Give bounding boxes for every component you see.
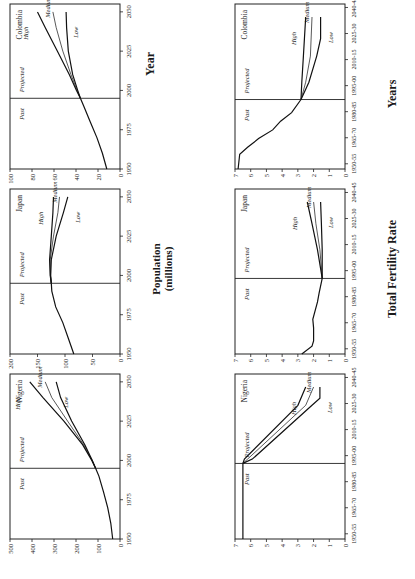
past-label: Past [18, 108, 25, 121]
y-tick-label: 4 [279, 358, 286, 362]
y-tick-label: 40 [73, 174, 80, 181]
y-tick-label: 100 [95, 544, 102, 554]
projected-label: Projected [18, 437, 25, 464]
series-line-low [56, 382, 95, 468]
panel-title: Japan [15, 195, 24, 212]
series-label-high: High [22, 27, 29, 41]
series-label-low: Low [327, 31, 334, 44]
chart-svg: 010020030040050019501975200020252050Past… [10, 374, 142, 539]
x-tick-label: 2025 [125, 230, 132, 243]
series-label-low: Low [327, 216, 334, 229]
y-tick-label: 5 [263, 544, 270, 547]
projected-label: Projected [18, 252, 25, 279]
population-y-title-line2: (millions) [162, 194, 174, 344]
y-tick-label: 400 [29, 544, 36, 554]
population-panel-colombia: 02040608010019501975200020252050PastProj… [10, 4, 120, 169]
y-tick-label: 150 [34, 359, 41, 369]
series-label-high: High [290, 402, 297, 416]
y-tick-label: 3 [294, 544, 301, 547]
projected-label: Projected [243, 247, 250, 274]
y-tick-label: 300 [51, 544, 58, 554]
fertility-panel-nigeria: 012345671950-551965-701980-851995-002010… [235, 374, 345, 539]
series-label-medium: Medium [305, 371, 312, 394]
panel-title: Nigeria [240, 379, 249, 402]
y-tick-label: 1 [326, 174, 333, 177]
series-label-medium: Medium [36, 366, 43, 389]
series-label-low: Low [74, 211, 81, 224]
series-label-high: High [291, 217, 298, 231]
past-series-line [96, 468, 113, 539]
y-tick-label: 6 [247, 173, 254, 177]
x-tick-label: 2025-30 [351, 394, 357, 414]
x-tick-label: 1950 [125, 163, 132, 176]
chart-svg: 012345671950-551965-701980-851995-002010… [235, 189, 367, 354]
x-tick-label: 1975 [125, 493, 132, 506]
past-label: Past [18, 478, 25, 491]
population-x-axis-title: Year [143, 34, 158, 94]
fertility-y-axis-title: Total Fertility Rate [385, 189, 400, 349]
series-label-high: High [290, 32, 297, 46]
x-tick-label: 1950-55 [351, 339, 357, 359]
x-tick-label: 1965-70 [351, 498, 357, 518]
series-label-low: Low [62, 396, 69, 409]
past-series-line [80, 98, 106, 169]
x-tick-label: 1995-00 [351, 261, 357, 281]
y-tick-label: 7 [232, 173, 239, 177]
x-tick-label: 1965-70 [351, 128, 357, 148]
x-tick-label: 2010-15 [351, 50, 357, 70]
chart-svg: 012345671950-551965-701980-851995-002010… [235, 4, 367, 169]
x-tick-label: 2025-30 [351, 209, 357, 229]
x-tick-label: 1950 [125, 348, 132, 361]
y-tick-label: 200 [73, 544, 80, 554]
series-line-low [301, 17, 321, 100]
x-tick-label: 1950 [125, 533, 132, 546]
y-tick-label: 100 [62, 359, 69, 369]
rotated-figure: 010020030040050019501975200020252050Past… [0, 0, 415, 579]
population-y-axis-title: Population (millions) [150, 194, 174, 344]
series-label-high: High [37, 212, 44, 226]
projected-label: Projected [18, 67, 25, 94]
x-tick-label: 1995-00 [351, 446, 357, 466]
past-label: Past [243, 473, 250, 486]
y-tick-label: 50 [89, 359, 96, 366]
x-tick-label: 2040-45 [351, 367, 357, 387]
past-label: Past [243, 109, 250, 122]
y-tick-label: 200 [7, 359, 14, 369]
chart-svg: 02040608010019501975200020252050PastProj… [10, 4, 142, 169]
series-label-low: Low [72, 26, 79, 39]
panel-title: Colombia [240, 9, 249, 39]
y-tick-label: 6 [247, 358, 254, 362]
series-label-high: High [14, 397, 21, 411]
y-tick-label: 5 [263, 174, 270, 177]
y-tick-label: 6 [247, 543, 254, 547]
y-tick-label: 0 [117, 359, 124, 362]
fertility-panel-japan: 012345671950-551965-701980-851995-002010… [235, 189, 345, 354]
y-tick-label: 0 [342, 174, 349, 177]
y-tick-label: 1 [326, 544, 333, 547]
y-tick-label: 60 [51, 174, 58, 181]
series-label-medium: Medium [44, 0, 51, 19]
y-tick-label: 0 [342, 359, 349, 362]
y-tick-label: 4 [279, 543, 286, 547]
y-tick-label: 3 [294, 174, 301, 177]
series-line-low [66, 12, 80, 98]
series-label-medium: Medium [305, 186, 312, 209]
y-tick-label: 1 [326, 359, 333, 362]
y-tick-label: 5 [263, 359, 270, 362]
chart-svg: 05010015020019501975200020252050PastProj… [10, 189, 142, 354]
x-tick-label: 2040-45 [351, 182, 357, 202]
x-tick-label: 2040-45 [351, 0, 357, 17]
series-line-medium [45, 382, 95, 468]
y-tick-label: 3 [294, 359, 301, 362]
plot-frame [235, 189, 345, 354]
x-tick-label: 2010-15 [351, 235, 357, 255]
series-label-medium: Medium [51, 181, 58, 204]
past-label: Past [18, 293, 25, 306]
projected-label: Projected [243, 68, 250, 95]
y-tick-label: 7 [232, 543, 239, 547]
y-tick-label: 2 [310, 544, 317, 547]
series-label-low: Low [326, 401, 333, 414]
series-line-high [30, 382, 96, 468]
y-tick-label: 80 [29, 174, 36, 181]
x-tick-label: 1950-55 [351, 154, 357, 174]
